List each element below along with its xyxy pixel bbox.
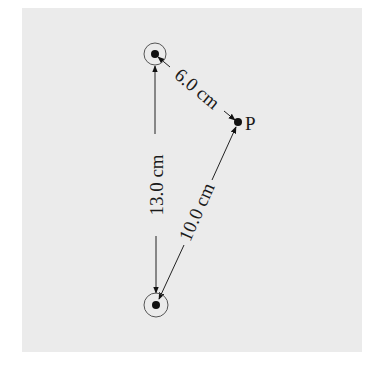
point-p-label: P [245, 113, 256, 134]
label-13cm: 13.0 cm [146, 154, 167, 215]
label-10cm: 10.0 cm [174, 179, 218, 244]
charge-bottom [144, 293, 168, 317]
charge-diagram: P 6.0 cm 13.0 cm 10.0 cm [0, 0, 376, 365]
label-6cm: 6.0 cm [171, 64, 224, 113]
charge-top [144, 43, 166, 65]
point-p: P [234, 113, 256, 134]
